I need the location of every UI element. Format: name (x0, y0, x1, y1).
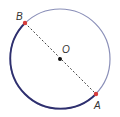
circle-diagram: B A O (0, 0, 120, 117)
point-a (94, 92, 98, 96)
center-point (58, 57, 62, 61)
label-a: A (93, 100, 101, 111)
point-b (23, 21, 27, 25)
label-b: B (16, 11, 23, 22)
label-o: O (62, 44, 70, 55)
highlighted-arc (10, 23, 96, 109)
